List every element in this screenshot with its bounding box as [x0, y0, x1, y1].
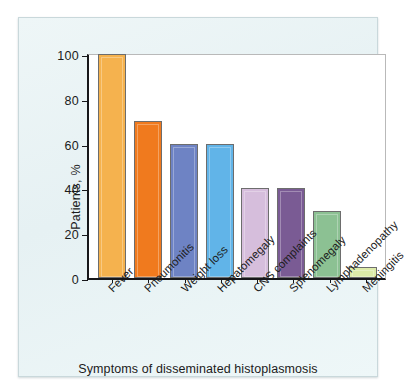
figure-panel: Patients, % 020406080100 FeverPneumoniti… — [18, 17, 378, 377]
y-tick-label: 40 — [64, 183, 79, 197]
bar[interactable] — [98, 54, 126, 278]
y-tick-label: 20 — [64, 228, 79, 242]
bar-slot — [130, 55, 166, 278]
y-tick-mark — [82, 280, 88, 281]
bar[interactable] — [134, 121, 162, 278]
y-tick-mark — [82, 235, 88, 236]
x-axis-title: Symptoms of disseminated histoplasmosis — [19, 362, 377, 376]
x-axis-tick-labels: FeverPneumonitisWeight lossHepatomegalyC… — [87, 282, 386, 368]
y-tick-label: 100 — [57, 49, 79, 63]
bar-slot — [94, 55, 130, 278]
y-tick-mark — [82, 146, 88, 147]
y-tick-label: 0 — [72, 273, 79, 287]
y-tick-label: 60 — [64, 139, 79, 153]
y-tick-label: 80 — [64, 94, 79, 108]
y-tick-mark — [82, 56, 88, 57]
y-tick-mark — [82, 190, 88, 191]
y-tick-mark — [82, 101, 88, 102]
